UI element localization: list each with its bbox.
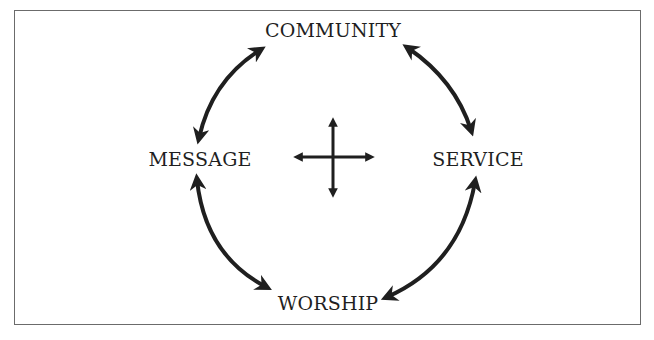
- node-label-service: SERVICE: [432, 148, 524, 170]
- four-way-arrow-icon: [298, 122, 370, 193]
- node-label-worship: WORSHIP: [278, 292, 379, 314]
- arrow-community-service: [408, 48, 471, 130]
- arrow-service-worship: [387, 182, 475, 297]
- node-label-message: MESSAGE: [148, 148, 251, 170]
- cycle-diagram: COMMUNITY SERVICE WORSHIP MESSAGE: [0, 0, 654, 340]
- arrow-message-community: [199, 50, 260, 138]
- arrow-worship-message: [197, 180, 266, 287]
- node-label-community: COMMUNITY: [265, 19, 401, 41]
